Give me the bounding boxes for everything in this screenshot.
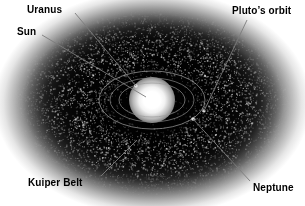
leader-uranus: [75, 13, 136, 86]
label-sun: Sun: [17, 26, 36, 38]
orbit-outer-orbit: [99, 71, 205, 129]
planet-markers: [134, 84, 205, 121]
kuiper-belt-diagram: Uranus Sun Pluto’s orbit Kuiper Belt Nep…: [0, 0, 305, 206]
orbit-inner-orbit: [119, 83, 185, 117]
orbit-rings: [99, 71, 205, 129]
orbit-middle-orbit: [110, 78, 194, 122]
label-plutos-orbit: Pluto’s orbit: [232, 5, 291, 17]
label-leader-lines: [42, 13, 250, 181]
label-kuiper-belt: Kuiper Belt: [28, 177, 82, 189]
leader-neptune: [193, 119, 250, 181]
leader-plutos-orbit: [204, 20, 247, 111]
leader-kuiper-belt: [101, 140, 137, 176]
orbit-overlay: [0, 0, 305, 206]
leader-sun: [42, 35, 146, 97]
label-neptune: Neptune: [253, 182, 294, 194]
label-uranus: Uranus: [27, 4, 62, 16]
